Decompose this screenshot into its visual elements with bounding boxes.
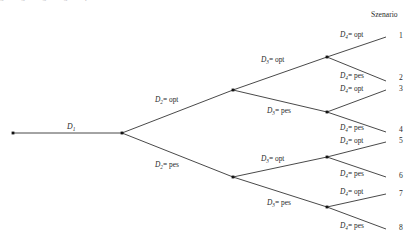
root-branch-label: D1: [67, 123, 75, 131]
decision-tree-diagram: g g g g p D1D2= optD2= pesD3= optD3= pes…: [0, 0, 418, 243]
branch-label-d3-pes-3: D3= pes: [267, 199, 291, 206]
scenario-number-6: 6: [396, 172, 406, 180]
branch-label-d4-opt-6: D4= opt: [340, 188, 363, 195]
edge-d4-opt-2: [327, 90, 386, 112]
scenario-number-3: 3: [396, 85, 406, 93]
scenario-number-5: 5: [396, 137, 406, 145]
edge-d2-pes: [122, 133, 233, 177]
branch-label-d3-opt-2: D3= opt: [261, 155, 284, 162]
node-root: [12, 132, 15, 135]
branch-label-d2-opt-0: D2= opt: [155, 96, 178, 103]
scenario-number-2: 2: [396, 74, 406, 82]
scenario-number-1: 1: [396, 32, 406, 40]
scenario-number-7: 7: [396, 190, 406, 198]
branch-label-d4-pes-5: D4= pes: [340, 170, 364, 177]
branch-label-d4-pes-1: D4= pes: [340, 72, 364, 79]
edge-d4-opt-0: [327, 37, 386, 57]
branch-label-d4-opt-4: D4= opt: [340, 137, 363, 144]
branch-label-d4-opt-2: D4= opt: [340, 85, 363, 92]
scenario-number-8: 8: [396, 224, 406, 232]
branch-label-d3-pes-1: D3= pes: [267, 107, 291, 114]
branch-label-d3-opt-0: D3= opt: [261, 56, 284, 63]
branch-label-d2-pes-1: D2= pes: [155, 161, 179, 168]
branch-label-d4-pes-3: D4= pes: [340, 124, 364, 131]
scenario-number-4: 4: [396, 126, 406, 134]
branch-label-d4-opt-0: D4= opt: [340, 31, 363, 38]
scenario-column-header: Szenario: [371, 11, 398, 19]
branch-label-d4-pes-7: D4= pes: [340, 222, 364, 229]
